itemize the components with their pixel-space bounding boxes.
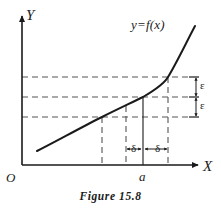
figure-caption: Figure 15.8 <box>0 190 221 202</box>
axes <box>22 16 198 165</box>
y-axis-label: Y <box>26 8 34 23</box>
figure-canvas <box>0 0 221 213</box>
function-label: y=f(x) <box>131 18 165 31</box>
delta-label-right: δ <box>155 143 160 154</box>
x-tick-label-a: a <box>139 170 146 183</box>
function-curve <box>37 26 195 151</box>
epsilon-label-upper: ε <box>200 80 205 91</box>
delta-label-left: δ <box>131 143 136 154</box>
epsilon-measure-group <box>189 77 199 117</box>
epsilon-label-lower: ε <box>200 100 205 111</box>
figure-container: Y X O a y=f(x) ε ε δ δ Figure 15.8 <box>0 0 221 213</box>
x-axis-label: X <box>203 159 212 174</box>
horizontal-guide-lines <box>22 77 192 117</box>
origin-label: O <box>6 171 15 184</box>
